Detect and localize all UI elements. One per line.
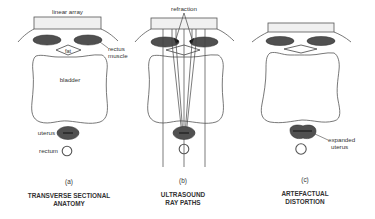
rectus-muscle-right (190, 37, 218, 47)
panel-c-caption-2: DISTORTION (285, 198, 325, 205)
ultrasound-refraction-diagram: linear array rectus muscle fat bladder u… (0, 0, 375, 219)
rectus-muscle-right (307, 37, 335, 46)
rectus-muscle-right (74, 35, 102, 45)
rectus-muscle-left (33, 35, 61, 45)
panel-b-caption-1: ULTRASOUND (161, 191, 206, 198)
panel-a-caption-2: ANATOMY (53, 200, 85, 207)
refraction-label: refraction (171, 5, 197, 12)
panel-a-caption-1: TRANSVERSE SECTIONAL (28, 192, 110, 199)
rectum-label: rectum (39, 147, 58, 154)
linear-array-transducer (34, 17, 101, 29)
panel-a-letter: (a) (65, 178, 73, 186)
panel-c-caption-1: ARTEFACTUAL (281, 190, 328, 197)
bladder-label: bladder (60, 76, 81, 83)
fat-label: fat (65, 48, 72, 54)
rectum (296, 144, 306, 154)
panel-b-letter: (b) (179, 177, 187, 185)
uterus-label: uterus (38, 129, 55, 136)
bladder (32, 55, 108, 124)
expanded-uterus-label-2: uterus (331, 143, 348, 150)
ray-refracted-right-2 (185, 29, 192, 135)
expanded-uterus (290, 125, 316, 139)
linear-array-label: linear array (52, 8, 84, 15)
panel-a: linear array rectus muscle fat bladder u… (18, 8, 128, 156)
rectus-label-1: rectus (108, 45, 125, 52)
linear-array-transducer (151, 18, 217, 29)
skin-line (135, 29, 234, 42)
rectus-label-2: muscle (108, 52, 128, 59)
rectum (62, 146, 72, 156)
linear-array-transducer (268, 23, 334, 32)
bladder (148, 55, 224, 124)
panel-b: refraction (135, 5, 234, 167)
panel-c-letter: (c) (301, 176, 308, 184)
bladder (261, 52, 340, 122)
muscle-leader-line (100, 42, 108, 48)
panel-c: expanded uterus (252, 23, 356, 154)
panel-b-caption-2: RAY PATHS (165, 199, 201, 206)
fat-region (284, 45, 317, 53)
uterus-leader-line (315, 134, 328, 140)
expanded-uterus-label-1: expanded (328, 136, 356, 143)
rectus-muscle-left (266, 37, 294, 46)
